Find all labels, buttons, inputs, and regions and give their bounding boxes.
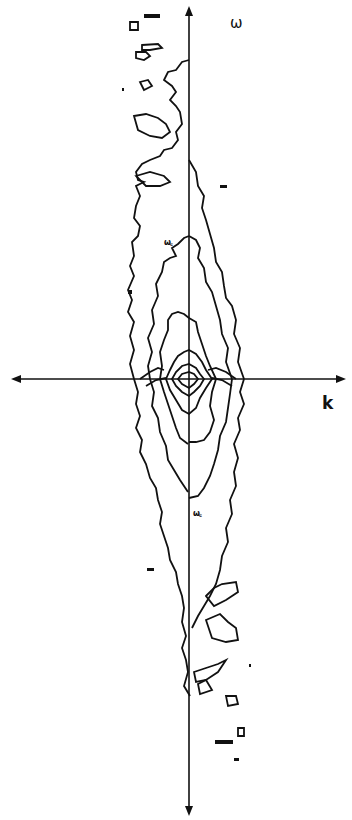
contour-islands-lower <box>147 568 251 761</box>
omega-axis-label: ω <box>230 14 243 32</box>
omega-c-marker-lower: ω꜀ <box>193 507 201 518</box>
contour-3 <box>160 312 216 444</box>
k-axis-arrow-left-icon <box>11 375 21 383</box>
omega-axis-arrow-down-icon <box>185 806 193 816</box>
omega-axis-arrow-up-icon <box>185 6 193 16</box>
omega-c-marker-upper: ω꜀ <box>164 236 172 247</box>
contour-fan <box>140 368 236 386</box>
contour-plot <box>0 0 352 820</box>
k-axis-arrow-right-icon <box>336 375 346 383</box>
contour-2 <box>148 236 232 498</box>
k-axis-label: k <box>322 393 333 413</box>
